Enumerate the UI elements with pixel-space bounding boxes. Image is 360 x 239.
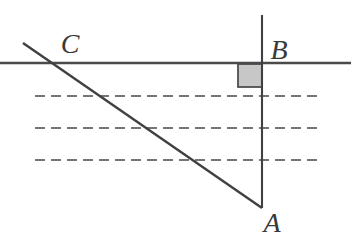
geometry-diagram: C B A [0, 0, 360, 239]
hypotenuse-line-CA [23, 43, 262, 208]
diagram-canvas [0, 0, 360, 239]
point-label-A: A [263, 209, 280, 237]
point-label-B: B [270, 36, 287, 64]
right-angle-marker [238, 64, 262, 87]
point-label-C: C [61, 30, 80, 58]
